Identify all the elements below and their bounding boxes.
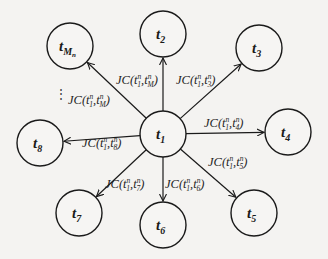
node-t6: t6 (140, 202, 186, 248)
node-t3: t3 (236, 25, 282, 71)
node-t5: t5 (231, 190, 277, 236)
edge-label-t2: JC(tn1,tnM) (116, 72, 158, 89)
edge-label-t6: JC(tn1,tn6) (165, 176, 204, 193)
node-t7: t7 (56, 190, 102, 236)
edge-label-tMn: JC(tn1,tnM) (68, 92, 110, 109)
node-t8: t8 (17, 120, 63, 166)
edge-label-t3: JC(tn1,tn3) (176, 72, 215, 89)
node-t4: t4 (265, 109, 311, 155)
edge-label-t4: JC(tn1,tn4) (204, 115, 243, 132)
star-graph-diagram: t1tMnt2t3t4t5t6t7t8 JC(tn1,tnM)JC(tn1,tn… (0, 0, 328, 259)
edge-t1-t4 (186, 132, 264, 133)
edge-t1-tMn (87, 62, 146, 118)
diagram-svg: t1tMnt2t3t4t5t6t7t8 JC(tn1,tnM)JC(tn1,tn… (0, 0, 328, 259)
node-tMn: tMn (47, 23, 93, 69)
ellipsis-dots: ⋮ (55, 87, 67, 101)
node-t2: t2 (140, 11, 186, 57)
node-t1: t1 (140, 111, 186, 157)
edge-label-t8: JC(tn1,tn8) (82, 135, 121, 152)
edge-label-t7: JC(tn1,tn7) (105, 176, 144, 193)
edge-label-t5: JC(tn1,tn5) (208, 154, 247, 171)
nodes-layer: t1tMnt2t3t4t5t6t7t8 (17, 11, 311, 248)
